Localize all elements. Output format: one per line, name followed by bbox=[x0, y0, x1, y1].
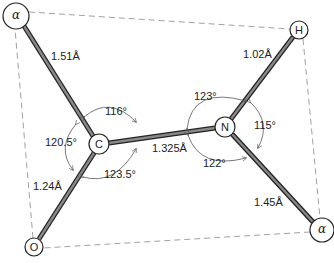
atom-label: N bbox=[221, 121, 229, 133]
bond-c-o bbox=[39, 153, 94, 239]
angle-label-123-5: 123.5° bbox=[104, 168, 136, 180]
bond-length-c-n: 1.325Å bbox=[152, 142, 188, 154]
atom-oxygen: O bbox=[25, 238, 43, 256]
bond-n-ca2 bbox=[232, 134, 313, 222]
atom-label: α bbox=[12, 8, 20, 22]
atom-alpha-carbon-2: α bbox=[310, 218, 334, 242]
bond-ca1-c bbox=[24, 26, 93, 136]
bond-length-n-h: 1.02Å bbox=[243, 48, 272, 60]
atom-label: C bbox=[95, 138, 103, 150]
peptide-bond-diagram: α H C N O α 1.51Å 1.325Å 1.24Å 1.02Å 1.4… bbox=[0, 0, 334, 263]
bond-length-ca1-c: 1.51Å bbox=[51, 50, 80, 62]
atom-alpha-carbon-1: α bbox=[3, 3, 29, 29]
atom-label: O bbox=[30, 241, 39, 253]
atom-nitrogen: N bbox=[215, 117, 235, 137]
bond-length-c-o: 1.24Å bbox=[33, 180, 62, 192]
angle-label-120-5: 120.5° bbox=[45, 136, 77, 148]
angle-label-122: 122° bbox=[203, 157, 226, 169]
angle-label-116: 116° bbox=[105, 105, 127, 117]
angle-label-123: 123° bbox=[194, 90, 217, 102]
atom-hydrogen: H bbox=[290, 21, 308, 39]
atom-label: H bbox=[295, 24, 303, 36]
bond-length-n-ca2: 1.45Å bbox=[254, 196, 283, 208]
atom-carbon: C bbox=[89, 134, 109, 154]
atom-label: α bbox=[318, 222, 326, 236]
bond-c-n bbox=[109, 128, 215, 143]
angle-label-115: 115° bbox=[254, 119, 276, 131]
